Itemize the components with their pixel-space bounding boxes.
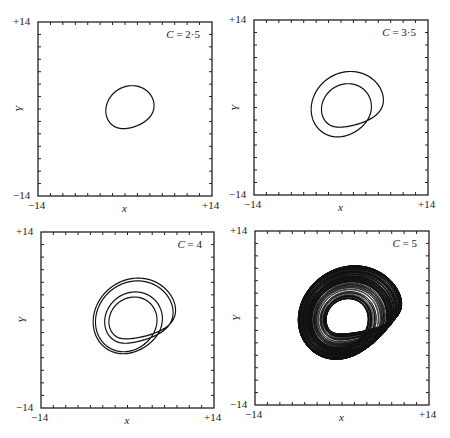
y-max-tick-label: +14 [13, 16, 30, 27]
plot-area [41, 232, 214, 408]
y-max-tick-label: +14 [229, 14, 246, 25]
plot-area [255, 231, 429, 405]
parameter-label: C = 2·5 [166, 28, 200, 40]
x-max-tick-label: +14 [419, 409, 436, 420]
x-min-tick-label: −14 [245, 409, 262, 420]
tick-marks [254, 20, 428, 195]
plot-area [254, 20, 428, 195]
parameter-label: C = 3·5 [382, 26, 416, 38]
plot-frame [254, 20, 428, 195]
y-max-tick-label: +14 [230, 225, 247, 236]
x-min-tick-label: −14 [244, 199, 261, 210]
x-max-tick-label: +14 [418, 199, 435, 210]
plot-frame [255, 231, 429, 405]
tick-marks [255, 231, 429, 405]
y-max-tick-label: +14 [16, 226, 33, 237]
trajectory-curve [311, 72, 383, 137]
tick-marks [38, 22, 212, 196]
plot-panel-d: C = 5+14−14−14+14xY [255, 231, 429, 405]
trajectory-curve [106, 86, 154, 129]
y-axis-label: Y [229, 104, 241, 110]
trajectory-curve [298, 266, 401, 360]
x-max-tick-label: +14 [202, 200, 219, 211]
tick-marks [41, 232, 214, 408]
x-axis-label: x [339, 411, 344, 423]
x-min-tick-label: −14 [31, 412, 48, 423]
plot-frame [38, 22, 212, 196]
x-axis-label: x [125, 414, 130, 426]
parameter-label: C = 5 [392, 237, 417, 249]
x-min-tick-label: −14 [28, 200, 45, 211]
parameter-label: C = 4 [177, 238, 202, 250]
plot-frame [41, 232, 214, 408]
x-axis-label: x [122, 202, 127, 214]
y-axis-label: Y [13, 106, 25, 112]
x-axis-label: x [338, 201, 343, 213]
trajectory-curve [93, 278, 175, 354]
y-axis-label: Y [16, 317, 28, 323]
plot-panel-c: C = 4+14−14−14+14xY [41, 232, 214, 408]
y-axis-label: Y [230, 315, 242, 321]
plot-panel-b: C = 3·5+14−14−14+14xY [254, 20, 428, 195]
plot-area [38, 22, 212, 196]
plot-panel-a: C = 2·5+14−14−14+14xY [38, 22, 212, 196]
x-max-tick-label: +14 [204, 412, 221, 423]
